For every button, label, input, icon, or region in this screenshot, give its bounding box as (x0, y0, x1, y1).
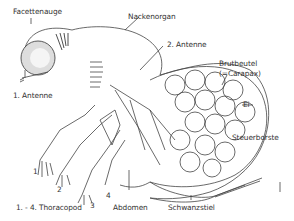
label-carapax: (=Carapax) (219, 70, 261, 77)
label-ei: Ei (243, 101, 250, 108)
label-thoracopod-1: 1 (33, 168, 38, 175)
daphnia-drawing (0, 0, 294, 221)
label-steuerborste: Steuerborste (232, 134, 279, 141)
neck-segments (90, 62, 103, 87)
label-brutbeutel: Brutbeutel (219, 60, 257, 67)
label-nackenorgan: Nackenorgan (128, 13, 176, 20)
thoracopods (38, 105, 125, 205)
eggs (165, 70, 255, 177)
label-thoracopod-2: 2 (57, 186, 62, 193)
brood-pouch (150, 66, 267, 186)
label-1-antenne: 1. Antenne (13, 92, 53, 99)
label-thoracopod-range: 1. - 4. Thoracopod (16, 204, 82, 211)
label-abdomen: Abdomen (113, 204, 148, 211)
label-schwanzstiel: Schwanzstiel (168, 204, 215, 211)
label-thoracopod-3: 3 (90, 202, 95, 209)
label-facettenauge: Facettenauge (13, 8, 62, 15)
label-thoracopod-4: 4 (106, 192, 111, 199)
label-2-antenne: 2. Antenne (167, 41, 207, 48)
